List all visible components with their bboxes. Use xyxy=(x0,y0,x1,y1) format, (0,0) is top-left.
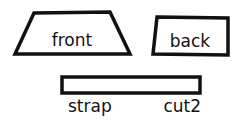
strap-cut-note: cut2 xyxy=(163,96,201,116)
pattern-diagram: front back strap cut2 xyxy=(0,0,238,125)
back-piece: back xyxy=(153,17,228,55)
strap-piece: strap cut2 xyxy=(62,77,201,116)
strap-outline xyxy=(62,77,200,93)
front-label: front xyxy=(52,30,93,50)
back-label: back xyxy=(170,31,211,51)
front-piece: front xyxy=(15,12,130,54)
strap-label: strap xyxy=(68,96,112,116)
